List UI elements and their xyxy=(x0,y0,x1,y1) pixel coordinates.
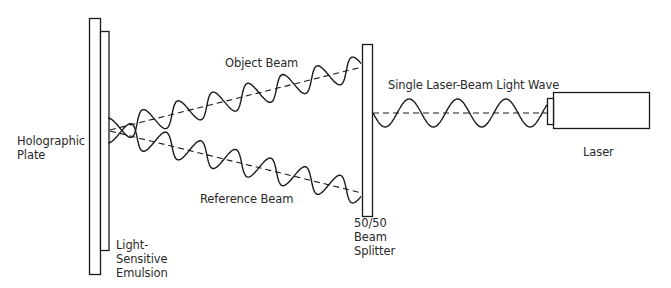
reference-beam-label: Reference Beam xyxy=(200,192,293,206)
laser-wave xyxy=(373,99,547,127)
laser-body-shape xyxy=(554,93,650,129)
emulsion-layer-shape xyxy=(101,32,110,251)
emulsion-label-line-3: Emulsion xyxy=(116,266,168,280)
beam-splitter-label: 50/50 Beam Splitter xyxy=(354,216,395,258)
holographic-plate-label-line-1: Holographic xyxy=(17,134,85,148)
beam-splitter-shape xyxy=(363,45,373,217)
laser-label: Laser xyxy=(583,145,614,159)
emulsion-label-line-1: Light- xyxy=(116,238,168,252)
emulsion-label-line-2: Sensitive xyxy=(116,252,168,266)
reference-beam-axis xyxy=(110,131,362,193)
beam-splitter-label-line-3: Splitter xyxy=(354,244,395,258)
object-beam-label: Object Beam xyxy=(225,56,298,70)
object-beam-axis xyxy=(110,67,362,130)
diagram-canvas xyxy=(0,0,671,288)
hologram-diagram: Holographic Plate Light- Sensitive Emuls… xyxy=(0,0,671,288)
holographic-plate-label-line-2: Plate xyxy=(17,148,85,162)
laser-wave-label: Single Laser-Beam Light Wave xyxy=(388,78,559,92)
beam-splitter-label-line-2: Beam xyxy=(354,230,395,244)
holographic-plate-label: Holographic Plate xyxy=(17,134,85,162)
beam-splitter-label-line-1: 50/50 xyxy=(354,216,395,230)
laser-aperture-shape xyxy=(548,99,554,125)
holographic-plate-shape xyxy=(90,19,101,275)
emulsion-label: Light- Sensitive Emulsion xyxy=(116,238,168,280)
